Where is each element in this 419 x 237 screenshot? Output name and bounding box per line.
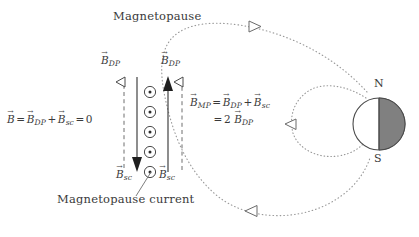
script-b-glyph: B (223, 97, 231, 108)
current-dot-symbol (144, 86, 155, 97)
script-b-glyph: B (234, 114, 242, 125)
b-sc-left-label: Bsc (116, 169, 132, 181)
subscript-dp: DP (242, 118, 253, 127)
current-dot-symbol (144, 166, 155, 177)
subscript-mp: MP (198, 101, 211, 110)
magnetopause-boundary-curve (162, 23, 370, 215)
script-b-glyph: B (161, 55, 169, 66)
subscript-sc: sc (66, 118, 74, 127)
earth (353, 98, 405, 150)
subscript-sc: sc (262, 101, 270, 110)
boundary-flow-arrow-top (249, 21, 261, 32)
script-b-glyph: B (101, 55, 109, 66)
earth-night-side (379, 98, 405, 150)
magnetopause-field-equation-line2: =2 BDP (212, 114, 253, 126)
b-dp-right-label: BDP (161, 55, 180, 67)
b-sc-left-vector (132, 77, 142, 172)
coefficient-two: 2 (224, 113, 231, 125)
b-dp-left-label: BDP (101, 55, 120, 67)
script-b-glyph: B (159, 169, 167, 180)
subscript-dp: DP (109, 59, 120, 68)
pole-north-label: N (374, 78, 384, 89)
magnetopause-current-sheet (144, 86, 155, 177)
boundary-flow-arrow-bottom (245, 206, 257, 217)
subscript-dp: DP (169, 59, 180, 68)
magnetopause-diagram: Magnetopause Magnetopause current N S BD… (0, 0, 419, 237)
b-sc-right-vector (163, 76, 173, 172)
script-b-glyph: B (58, 114, 66, 125)
magnetopause-current-label: Magnetopause current (57, 194, 194, 206)
subscript-sc: sc (124, 173, 132, 182)
magnetopause-title: Magnetopause (113, 11, 201, 23)
b-sc-right-label: Bsc (159, 169, 175, 181)
script-b-glyph: B (27, 114, 35, 125)
pole-south-label: S (374, 153, 382, 164)
inside-field-equation: B=BDP+Bsc=0 (7, 114, 93, 126)
subscript-dp: DP (35, 118, 46, 127)
current-dot-symbol (144, 146, 155, 157)
script-b-glyph: B (116, 169, 124, 180)
current-dot-symbol (144, 126, 155, 137)
magnetopause-field-equation-line1: BMP=BDP+Bsc (190, 97, 270, 109)
inner-loop-flow-arrow (285, 119, 296, 130)
current-dot-symbol (144, 106, 155, 117)
subscript-sc: sc (167, 173, 175, 182)
script-b-glyph: B (7, 114, 15, 125)
script-b-glyph: B (254, 97, 262, 108)
script-b-glyph: B (190, 97, 198, 108)
equation-result-zero: 0 (86, 113, 93, 125)
